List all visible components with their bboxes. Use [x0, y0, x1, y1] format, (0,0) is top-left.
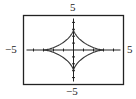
x-min-label: −5	[5, 44, 17, 55]
axes	[27, 19, 121, 82]
x-max-label: 5	[127, 44, 133, 55]
y-min-label: −5	[66, 86, 78, 97]
y-max-label: 5	[70, 2, 76, 13]
